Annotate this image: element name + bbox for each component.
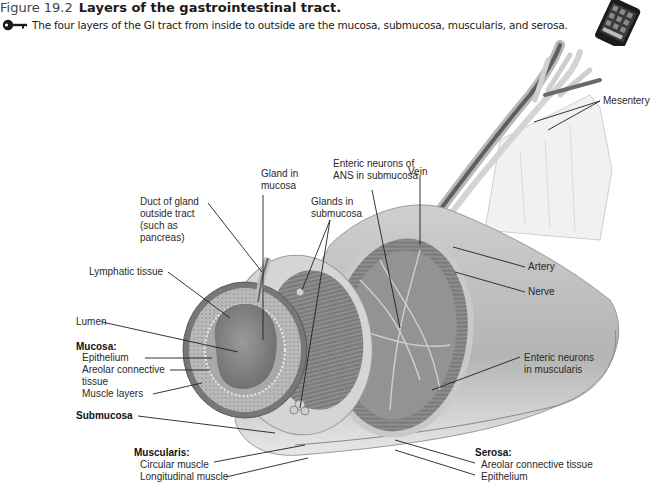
label-muscularis-circular: Circular muscle [140,459,209,471]
label-artery: Artery [528,261,555,273]
label-lumen: Lumen [76,316,107,328]
label-enteric-muscularis-line2: in muscularis [524,364,582,376]
label-gland-mucosa-line2: mucosa [261,180,296,192]
label-duct-line1: Duct of gland [140,196,199,208]
label-vein: Vein [408,166,427,178]
label-mucosa-muscle-layers: Muscle layers [82,388,143,400]
label-enteric-muscularis-line1: Enteric neurons [524,352,594,364]
label-muscularis-heading: Muscularis: [134,447,190,459]
label-mucosa-areolar-line1: Areolar connective [82,364,165,376]
label-duct-line4: pancreas) [140,232,184,244]
label-serosa-areolar: Areolar connective tissue [481,459,593,471]
label-duct-line2: outside tract [140,208,194,220]
label-enteric-submucosa-line1: Enteric neurons of [333,158,414,170]
label-submucosa: Submucosa [76,410,133,422]
label-serosa-heading: Serosa: [475,447,512,459]
label-gland-mucosa-line1: Gland in [261,168,298,180]
label-mucosa-epithelium: Epithelium [82,352,129,364]
label-glands-submucosa-line2: submucosa [311,208,362,220]
label-enteric-submucosa-line2: ANS in submucosa [333,170,418,182]
label-lymphatic-tissue: Lymphatic tissue [89,266,163,278]
label-nerve: Nerve [528,286,555,298]
label-glands-submucosa-line1: Glands in [311,196,353,208]
label-muscularis-longitudinal: Longitudinal muscle [140,471,228,483]
label-duct-line3: (such as [140,220,178,232]
label-mesentery: Mesentery [603,95,650,107]
label-serosa-epithelium: Epithelium [481,471,528,483]
label-mucosa-areolar-line2: tissue [82,376,108,388]
